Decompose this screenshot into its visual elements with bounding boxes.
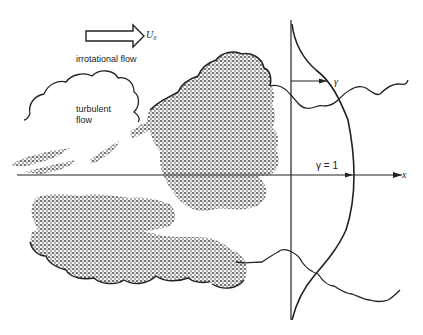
gamma-one-arrow bbox=[345, 173, 353, 178]
intermittency-profile-curve bbox=[292, 24, 354, 320]
gamma-arrow bbox=[291, 79, 327, 84]
x-axis-label: x bbox=[402, 169, 406, 180]
turbulent-flow-label-line2: flow bbox=[76, 115, 92, 126]
turbulent-region bbox=[12, 52, 279, 288]
turbulent-interface-right-lower bbox=[236, 250, 400, 302]
flow-arrow-icon bbox=[86, 25, 144, 47]
gamma-equals-one-label: γ = 1 bbox=[316, 160, 338, 171]
turbulent-flow-label-line1: turbulent bbox=[76, 104, 111, 115]
gamma-label: γ bbox=[334, 76, 338, 87]
u0-label: U₀ bbox=[146, 29, 157, 40]
irrotational-flow-label: irrotational flow bbox=[76, 54, 137, 65]
diagram-canvas: U₀ irrotational flow turbulent flow γ γ … bbox=[0, 0, 423, 335]
diagram-svg bbox=[0, 0, 423, 335]
